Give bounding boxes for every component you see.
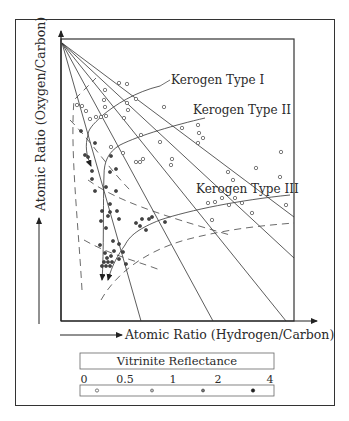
- label-kerogen-type-3: Kerogen Type III: [196, 182, 299, 196]
- legend-tick-4: 4: [267, 373, 274, 386]
- legend-tick-2: 2: [215, 373, 222, 386]
- van-krevelen-diagram: Kerogen Type I Kerogen Type II Kerogen T…: [0, 0, 349, 421]
- label-kerogen-type-1: Kerogen Type I: [171, 73, 264, 87]
- legend-symbol-box: [80, 385, 274, 396]
- x-axis-label: Atomic Ratio (Hydrogen/Carbon): [124, 327, 334, 342]
- legend-tick-0-5: 0.5: [116, 373, 134, 386]
- y-axis-label: Atomic Ratio (Oxygen/Carbon): [33, 17, 48, 212]
- legend-symbol-half: [202, 389, 205, 392]
- legend-tick-0: 0: [81, 373, 88, 386]
- label-kerogen-type-2: Kerogen Type II: [193, 103, 291, 117]
- leader-type1: [160, 80, 170, 86]
- legend-symbol-light: [151, 389, 154, 392]
- legend-title: Vitrinite Reflectance: [116, 354, 237, 368]
- legend-tick-1: 1: [170, 373, 177, 386]
- legend-symbol-open: [95, 389, 98, 392]
- legend-symbol-filled: [251, 389, 254, 392]
